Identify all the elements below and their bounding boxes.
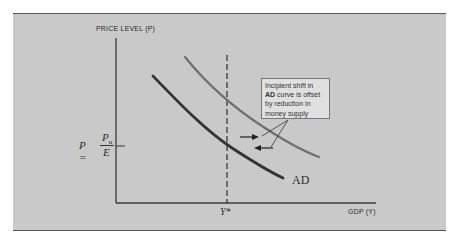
numerator-symbol: P <box>102 131 109 143</box>
x-axis-label: GDP (Y) <box>348 208 376 215</box>
callout-ad-bold: AD <box>265 91 275 98</box>
y-axis-label: PRICE LEVEL (P) <box>96 25 155 32</box>
arrow-left-icon <box>254 145 273 151</box>
callout-line-3: by reduction in <box>265 99 326 108</box>
equation-lhs: P = <box>79 139 86 163</box>
callout-line-2-rest: curve is offset <box>275 91 320 98</box>
callout-line-4: money supply <box>265 109 326 118</box>
callout-line-1: Incipient shift in <box>265 81 326 90</box>
equation-numerator: Pu <box>102 131 112 146</box>
arrow-right-icon <box>240 134 259 140</box>
ad-curve-label: AD <box>292 173 309 188</box>
callout-box: Incipient shift in AD curve is offset by… <box>261 78 330 119</box>
y-star-label: Y* <box>220 206 231 217</box>
callout-line-2: AD curve is offset <box>265 90 326 99</box>
equation-denominator: E <box>103 146 110 158</box>
